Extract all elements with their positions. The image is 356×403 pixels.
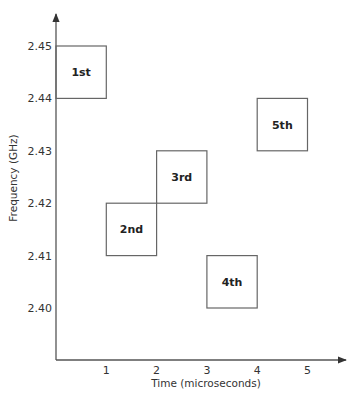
x-tick-labels: 12345 bbox=[103, 364, 311, 377]
y-axis-label: Frequency (GHz) bbox=[7, 134, 19, 221]
hop-box-4th: 4th bbox=[207, 256, 257, 308]
x-tick-label: 3 bbox=[203, 364, 210, 377]
hop-label: 3rd bbox=[171, 171, 192, 184]
hop-label: 4th bbox=[222, 276, 243, 289]
frequency-hopping-chart: 2.402.412.422.432.442.45 12345 1st2nd3rd… bbox=[0, 0, 356, 403]
hop-label: 2nd bbox=[120, 223, 143, 236]
hop-box-3rd: 3rd bbox=[157, 151, 207, 203]
hop-box-1st: 1st bbox=[56, 46, 106, 98]
y-tick-label: 2.43 bbox=[28, 145, 53, 158]
y-tick-label: 2.40 bbox=[28, 302, 53, 315]
x-tick-label: 4 bbox=[254, 364, 261, 377]
x-tick-label: 2 bbox=[153, 364, 160, 377]
hop-box-5th: 5th bbox=[257, 98, 307, 150]
hop-boxes: 1st2nd3rd4th5th bbox=[56, 46, 308, 308]
y-tick-label: 2.45 bbox=[28, 40, 53, 53]
y-tick-label: 2.44 bbox=[28, 92, 53, 105]
hop-label: 5th bbox=[272, 119, 293, 132]
y-tick-label: 2.42 bbox=[28, 197, 53, 210]
x-tick-label: 5 bbox=[304, 364, 311, 377]
axes bbox=[56, 14, 346, 360]
x-tick-label: 1 bbox=[103, 364, 110, 377]
x-axis-label: Time (microseconds) bbox=[150, 377, 261, 389]
hop-label: 1st bbox=[71, 66, 90, 79]
y-tick-label: 2.41 bbox=[28, 250, 53, 263]
hop-box-2nd: 2nd bbox=[106, 203, 156, 255]
y-tick-labels: 2.402.412.422.432.442.45 bbox=[28, 40, 53, 315]
